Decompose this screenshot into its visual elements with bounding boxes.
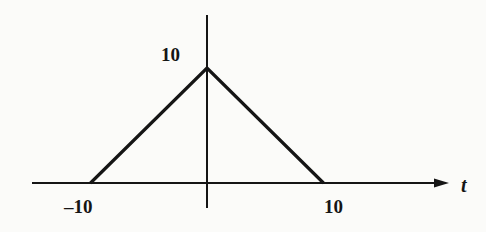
peak-value-label: 10 xyxy=(161,45,180,64)
x-tick-label-right: 10 xyxy=(324,197,343,216)
x-axis-arrowhead-icon xyxy=(434,179,449,188)
x-tick-label-left: –10 xyxy=(64,197,93,216)
triangle-pulse-figure: 10 –10 10 t xyxy=(0,0,486,232)
x-axis-variable-label: t xyxy=(461,175,467,195)
